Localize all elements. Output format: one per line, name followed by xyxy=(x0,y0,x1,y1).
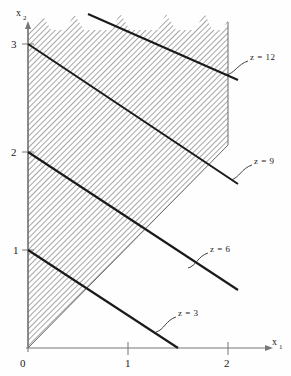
z-12-label: z = 12 xyxy=(250,52,276,62)
leader-line-z12 xyxy=(226,61,248,75)
z-6-label: z = 6 xyxy=(210,244,231,254)
leader-line-z3 xyxy=(156,317,176,332)
contour-plot-figure: x 2 x 1 0 1 2 1 2 3 z = 12 z = 9 z = 6 z… xyxy=(0,0,291,376)
z-9-label: z = 9 xyxy=(254,156,275,166)
origin-label: 0 xyxy=(20,357,26,369)
x-axis-label: x xyxy=(272,336,277,347)
x-tick-label-1: 1 xyxy=(125,357,131,369)
y-axis-label-subscript: 2 xyxy=(23,14,27,22)
y-tick-label-1: 1 xyxy=(13,244,19,256)
leader-line-z9 xyxy=(231,165,252,180)
x-tick-label-2: 2 xyxy=(224,357,230,369)
y-tick-label-3: 3 xyxy=(11,38,17,50)
y-axis-arrow-icon xyxy=(25,21,31,29)
z-3-label: z = 3 xyxy=(178,308,199,318)
x-axis-label-subscript: 1 xyxy=(279,343,283,351)
plot-root: x 2 x 1 0 1 2 1 2 3 z = 12 z = 9 z = 6 z… xyxy=(0,0,291,376)
leader-line-z6 xyxy=(188,253,208,268)
y-axis-label: x xyxy=(16,7,21,18)
y-tick-label-2: 2 xyxy=(11,146,17,158)
